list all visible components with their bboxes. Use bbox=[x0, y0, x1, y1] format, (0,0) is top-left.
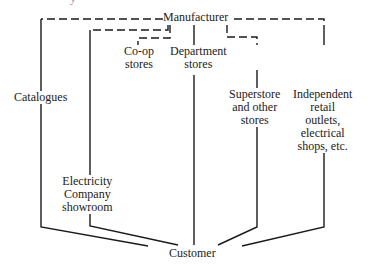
link-superstore-dashed bbox=[227, 25, 257, 45]
customer-node: Customer bbox=[169, 247, 216, 260]
electricity-label: Electricity Company showroom bbox=[62, 175, 113, 214]
link-independent-dashed bbox=[234, 19, 324, 30]
coop-line-2: stores bbox=[124, 58, 154, 71]
superstore-label: Superstore and other stores bbox=[229, 88, 280, 127]
independent-line-5: shops, etc. bbox=[293, 140, 352, 153]
superstore-line-3: stores bbox=[229, 114, 280, 127]
coop-label: Co-op stores bbox=[124, 45, 154, 71]
manufacturer-node: Manufacturer bbox=[163, 11, 228, 24]
catalogues-label: Catalogues bbox=[14, 91, 67, 104]
department-line-2: stores bbox=[170, 58, 227, 71]
independent-label: Independent retail outlets, electrical s… bbox=[293, 88, 352, 153]
electricity-line-3: showroom bbox=[62, 201, 113, 214]
top-fragment: y bbox=[70, 0, 76, 5]
link-electricity-dashed bbox=[90, 25, 168, 30]
link-coop-dashed bbox=[138, 25, 170, 45]
department-label: Department stores bbox=[170, 45, 227, 71]
